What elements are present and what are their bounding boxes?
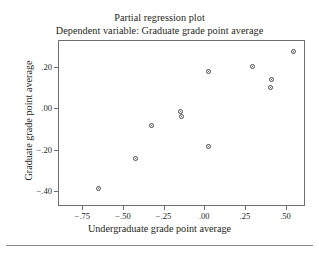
y-tick-mark	[54, 67, 58, 68]
x-tick-label: .00	[187, 211, 221, 221]
x-tick-label: −.25	[147, 211, 181, 221]
data-point	[133, 156, 138, 161]
partial-regression-plot-figure: Partial regression plot Dependent variab…	[0, 0, 319, 254]
y-tick-mark	[54, 150, 58, 151]
x-tick-label: .25	[228, 211, 262, 221]
x-tick-mark	[286, 206, 287, 210]
x-tick-mark	[204, 206, 205, 210]
plot-area	[58, 40, 305, 206]
footer-divider	[6, 245, 313, 246]
data-point	[96, 186, 101, 191]
x-tick-mark	[245, 206, 246, 210]
data-point	[179, 114, 184, 119]
data-point	[149, 123, 154, 128]
chart-subtitle: Dependent variable: Graduate grade point…	[0, 24, 319, 37]
x-axis-title: Undergraduate grade point average	[0, 223, 319, 234]
data-point	[291, 49, 296, 54]
x-tick-mark	[82, 206, 83, 210]
x-tick-label: −.75	[65, 211, 99, 221]
chart-title: Partial regression plot	[0, 11, 319, 24]
data-point	[206, 144, 211, 149]
x-tick-mark	[164, 206, 165, 210]
y-axis-title: Graduate grade point average	[23, 31, 34, 211]
data-point	[269, 77, 274, 82]
data-point	[206, 69, 211, 74]
scatter-points-layer	[59, 41, 304, 205]
chart-title-block: Partial regression plot Dependent variab…	[0, 11, 319, 37]
x-tick-label: −.50	[106, 211, 140, 221]
x-tick-mark	[123, 206, 124, 210]
data-point	[250, 64, 255, 69]
data-point	[268, 85, 273, 90]
x-tick-label: .50	[269, 211, 303, 221]
y-tick-mark	[54, 108, 58, 109]
y-tick-mark	[54, 191, 58, 192]
